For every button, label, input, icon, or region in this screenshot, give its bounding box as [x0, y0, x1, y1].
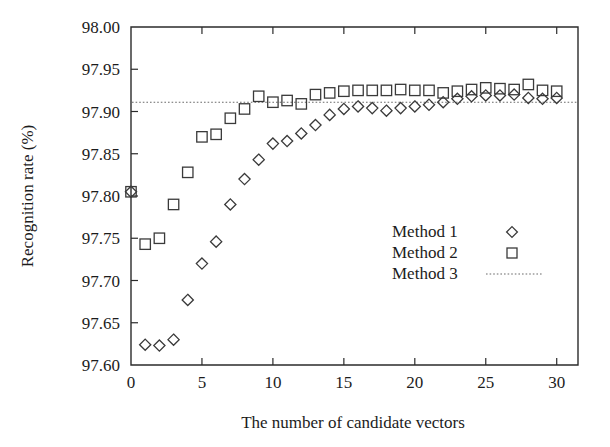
data-point-method-1 [140, 339, 151, 350]
x-tick-label: 5 [198, 373, 207, 392]
data-point-method-1 [423, 99, 434, 110]
data-point-method-1 [296, 128, 307, 139]
y-tick-label: 98.00 [82, 18, 120, 37]
data-point-method-1 [282, 135, 293, 146]
data-point-method-2 [211, 129, 221, 139]
data-point-method-2 [410, 85, 420, 95]
y-tick-label: 97.75 [82, 229, 120, 248]
data-point-method-1 [409, 101, 420, 112]
data-point-method-2 [296, 99, 306, 109]
data-point-method-2 [339, 86, 349, 96]
chart-legend: Method 1Method 2Method 3 [392, 222, 542, 283]
data-point-method-1 [182, 294, 193, 305]
data-point-method-1 [381, 105, 392, 116]
data-point-method-1 [395, 103, 406, 114]
data-point-method-2 [552, 86, 562, 96]
data-point-method-1 [253, 154, 264, 165]
chart-figure-root: 97.6097.6597.7097.7597.8097.8597.9097.95… [0, 0, 610, 447]
axes-frame-path [131, 27, 578, 365]
x-axis-tick-labels: 051015202530 [127, 373, 565, 392]
data-point-method-1 [367, 103, 378, 114]
data-point-method-2 [495, 83, 505, 93]
legend-label-3: Method 3 [392, 264, 458, 283]
data-point-method-1 [466, 91, 477, 102]
legend-marker-square [507, 248, 517, 258]
y-tick-label: 97.65 [82, 314, 120, 333]
data-point-method-1 [225, 199, 236, 210]
data-point-method-1 [211, 236, 222, 247]
data-point-method-1 [352, 101, 363, 112]
data-point-method-2 [140, 239, 150, 249]
y-tick-label: 97.80 [82, 187, 120, 206]
data-point-method-1 [494, 90, 505, 101]
scatter-chart-svg: 97.6097.6597.7097.7597.8097.8597.9097.95… [0, 0, 610, 447]
x-tick-label: 30 [548, 373, 565, 392]
data-point-method-2 [254, 91, 264, 101]
data-point-method-1 [338, 103, 349, 114]
x-axis-tick-group [202, 27, 557, 365]
legend-marker-diamond [507, 227, 518, 238]
x-tick-label: 25 [477, 373, 494, 392]
data-point-method-1 [168, 334, 179, 345]
legend-label-1: Method 1 [392, 222, 458, 241]
data-point-method-2 [466, 84, 476, 94]
y-tick-label: 97.60 [82, 356, 120, 375]
data-point-method-1 [196, 258, 207, 269]
y-tick-label: 97.95 [82, 60, 120, 79]
data-point-method-2 [154, 233, 164, 243]
series-method-1-markers [125, 89, 562, 351]
data-point-method-1 [324, 109, 335, 120]
plot-axes-frame [131, 27, 578, 365]
x-tick-label: 0 [127, 373, 136, 392]
data-point-method-2 [395, 84, 405, 94]
x-tick-label: 10 [264, 373, 281, 392]
x-tick-label: 20 [406, 373, 423, 392]
x-tick-label: 15 [335, 373, 352, 392]
data-point-method-2 [239, 104, 249, 114]
data-point-method-2 [282, 95, 292, 105]
series-method-2-markers [126, 79, 562, 249]
data-point-method-2 [168, 199, 178, 209]
y-tick-label: 97.90 [82, 103, 120, 122]
data-point-method-2 [367, 85, 377, 95]
data-point-method-2 [225, 113, 235, 123]
data-point-method-2 [424, 85, 434, 95]
data-point-method-1 [310, 119, 321, 130]
data-point-method-2 [523, 79, 533, 89]
y-axis-tick-labels: 97.6097.6597.7097.7597.8097.8597.9097.95… [82, 18, 120, 375]
y-tick-label: 97.85 [82, 145, 120, 164]
data-point-method-2 [183, 167, 193, 177]
data-point-method-2 [310, 89, 320, 99]
data-point-method-2 [452, 86, 462, 96]
data-point-method-2 [381, 85, 391, 95]
y-tick-label: 97.70 [82, 272, 120, 291]
data-point-method-1 [267, 138, 278, 149]
y-axis-title: Recognition rate (%) [18, 125, 37, 268]
data-point-method-2 [324, 88, 334, 98]
data-point-method-2 [353, 85, 363, 95]
data-point-method-1 [480, 90, 491, 101]
data-point-method-1 [239, 174, 250, 185]
x-axis-title: The number of candidate vectors [241, 413, 465, 432]
data-point-method-2 [481, 83, 491, 93]
data-point-method-2 [197, 132, 207, 142]
data-point-method-1 [154, 340, 165, 351]
legend-label-2: Method 2 [392, 243, 458, 262]
